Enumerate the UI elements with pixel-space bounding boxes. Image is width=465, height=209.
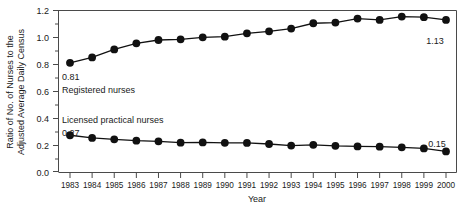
y-tick-label: 0.6 [36,87,49,97]
x-tick-label: 1986 [127,181,146,190]
x-tick-label: 1996 [348,181,367,190]
y-tick-label: 0.0 [36,168,49,178]
x-axis-ticks [70,173,446,179]
series-line-registered-nurses [70,17,446,63]
y-axis [53,10,59,172]
x-axis-tick-labels: 1983198419851986198719881989199019911992… [61,181,456,190]
data-point-marker [155,137,163,145]
data-point-marker [265,140,273,148]
chart-canvas: Ratio of No. of Nurses to the Adjusted A… [0,0,465,209]
data-point-marker [376,143,384,151]
nurse-staffing-ratio-chart: Ratio of No. of Nurses to the Adjusted A… [0,0,465,209]
registered-nurses-end-value: 1.13 [426,36,444,46]
y-tick-label: 0.4 [36,114,49,124]
data-point-marker [287,142,295,150]
registered-nurses-start-value: 0.81 [62,72,80,82]
x-tick-label: 1993 [282,181,301,190]
x-tick-label: 1997 [371,181,390,190]
x-tick-label: 1987 [149,181,168,190]
data-point-marker [66,59,74,67]
data-point-marker [354,143,362,151]
x-axis-title: Year [248,194,266,204]
data-point-marker [398,143,406,151]
data-point-marker [110,135,118,143]
data-point-marker [155,36,163,44]
data-point-marker [265,27,273,35]
licensed-practical-nurses-end-value: 0.15 [428,139,446,149]
y-axis-title-line2: Adjusted Average Daily Census [16,29,26,155]
data-point-marker [398,13,406,21]
data-point-marker [199,138,207,146]
series-markers-registered-nurses [66,13,450,67]
y-axis-tick-labels: 1.2 1.0 0.8 0.6 0.4 0.2 0.0 [36,6,49,178]
data-point-marker [376,16,384,24]
y-tick-label: 1.2 [36,6,49,16]
data-point-marker [221,33,229,41]
x-tick-label: 1995 [326,181,345,190]
data-point-marker [110,46,118,54]
data-point-marker [309,19,317,27]
x-tick-label: 1988 [171,181,190,190]
data-point-marker [332,142,340,150]
x-tick-label: 1983 [61,181,80,190]
y-axis-title: Ratio of No. of Nurses to the Adjusted A… [5,29,26,155]
data-point-marker [420,13,428,21]
x-tick-label: 1985 [105,181,124,190]
data-point-marker [88,54,96,62]
data-point-marker [177,139,185,147]
data-point-marker [132,39,140,47]
data-point-marker [309,141,317,149]
registered-nurses-series-label: Registered nurses [62,85,136,95]
data-point-marker [221,139,229,147]
data-point-marker [243,29,251,37]
data-point-marker [354,15,362,23]
data-point-marker [132,137,140,145]
data-point-marker [199,33,207,41]
x-tick-label: 1984 [83,181,102,190]
data-point-marker [243,139,251,147]
y-tick-label: 0.8 [36,60,49,70]
x-tick-label: 1994 [304,181,323,190]
x-tick-label: 1989 [194,181,213,190]
data-point-marker [442,16,450,24]
y-axis-title-line1: Ratio of No. of Nurses to the [5,35,15,149]
licensed-practical-nurses-start-value: 0.27 [62,128,80,138]
y-tick-label: 0.2 [36,141,49,151]
x-tick-label: 1999 [415,181,434,190]
x-tick-label: 1998 [393,181,412,190]
y-tick-label: 1.0 [36,33,49,43]
x-tick-label: 2000 [437,181,456,190]
data-point-marker [332,19,340,27]
data-point-marker [420,145,428,153]
data-point-marker [88,134,96,142]
data-point-marker [287,25,295,33]
x-tick-label: 1992 [260,181,279,190]
series-licensed-practical-nurses [66,131,450,155]
series-line-licensed-practical-nurses [70,135,446,151]
data-point-marker [177,35,185,43]
x-tick-label: 1990 [216,181,235,190]
series-registered-nurses [66,13,450,67]
x-tick-label: 1991 [238,181,257,190]
licensed-practical-nurses-series-label: Licensed practical nurses [62,115,164,125]
